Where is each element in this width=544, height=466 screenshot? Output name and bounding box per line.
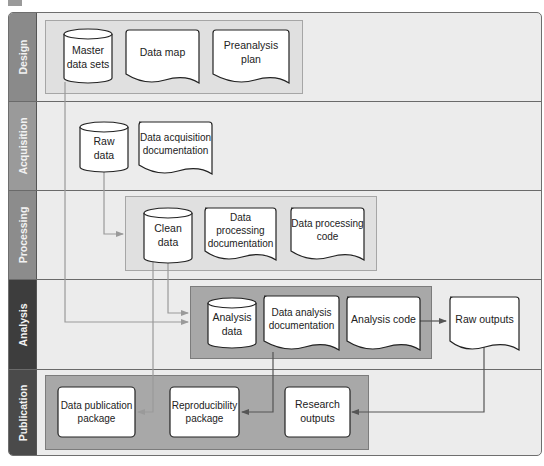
lane-label-analysis: Analysis	[9, 280, 37, 369]
lane-label-publication: Publication	[9, 370, 37, 455]
node-data-acquisition-documentation: Data acquisition documentation	[139, 124, 212, 164]
node-data-map: Data map	[126, 32, 199, 74]
node-master-data-sets: Master data sets	[64, 38, 112, 78]
node-analysis-data: Analysis data	[208, 306, 256, 344]
node-preanalysis-plan: Preanalysis plan	[213, 32, 289, 74]
lane-label-acquisition: Acquisition	[9, 102, 37, 190]
lane-label-design: Design	[9, 13, 37, 101]
node-data-processing-code: Data processing code	[291, 210, 364, 250]
node-reproducibility-package: Reproducibility package	[170, 387, 239, 437]
corner-marker	[8, 0, 22, 6]
node-raw-outputs: Raw outputs	[450, 299, 519, 341]
node-data-publication-package: Data publication package	[58, 387, 135, 437]
node-data-processing-documentation: Data processing documentation	[205, 210, 276, 250]
node-raw-data: Raw data	[80, 130, 128, 167]
lane-label-processing: Processing	[9, 191, 37, 279]
node-analysis-code: Analysis code	[347, 299, 420, 341]
node-clean-data: Clean data	[144, 216, 192, 256]
node-data-analysis-documentation: Data analysis documentation	[264, 298, 339, 340]
node-research-outputs: Research outputs	[285, 387, 350, 437]
